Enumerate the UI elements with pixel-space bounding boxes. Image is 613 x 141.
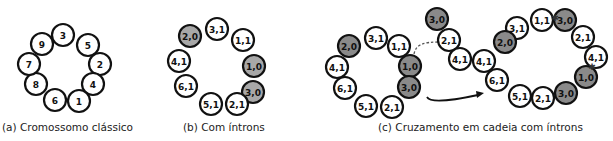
dashed-cut-connector — [414, 42, 440, 54]
gene-label: 1,1 — [534, 16, 550, 26]
gene-label: 5,1 — [512, 92, 528, 102]
intron-gene-node: 2,0 — [179, 25, 201, 47]
crossover-mark-icon: ✱ — [551, 13, 559, 23]
gene-label: 3,0 — [557, 16, 573, 26]
gene-label: 6,1 — [337, 84, 353, 94]
gene-node: 6,1 — [334, 77, 356, 99]
intron-gene-node: 2,0 — [338, 35, 360, 57]
gene-label: 3,0 — [429, 15, 445, 25]
arrow-head-icon — [476, 91, 484, 98]
gene-label: 2,1 — [575, 33, 591, 43]
gene-label: 3,0 — [401, 83, 417, 93]
gene-label: 6,1 — [178, 82, 194, 92]
gene-label: 3,1 — [368, 34, 384, 44]
gene-label: 4,1 — [329, 63, 345, 73]
gene-label: 4,1 — [588, 53, 604, 63]
crossover-mark-icon: ✱ — [588, 62, 596, 72]
gene-node: 8 — [25, 73, 47, 95]
gene-node: 5,1 — [355, 95, 377, 117]
gene-node: 4,1 — [168, 50, 190, 72]
gene-node: 3,1 — [206, 18, 228, 40]
detached-fragment: 3,02,14,1 — [426, 8, 471, 70]
gene-label: 1,0 — [402, 62, 418, 72]
intron-gene-node: 3,0 — [426, 8, 448, 30]
gene-node: 4,1 — [449, 48, 471, 70]
gene-node: 1,1 — [232, 29, 254, 51]
gene-node: 2,1 — [572, 26, 594, 48]
intron-gene-node: 2,0 — [494, 31, 516, 53]
transition-arrow — [427, 95, 478, 101]
gene-label: 3,0 — [245, 88, 261, 98]
gene-label: 1,0 — [578, 73, 594, 83]
gene-node: 7 — [18, 53, 40, 75]
gene-node: 9 — [31, 33, 53, 55]
gene-node: 4,1 — [473, 50, 495, 72]
gene-label: 2,1 — [441, 36, 457, 46]
gene-node: 6 — [44, 89, 66, 111]
gene-node: 4,1 — [326, 56, 348, 78]
gene-label: 2,0 — [497, 38, 513, 48]
gene-label: 5 — [85, 41, 91, 51]
panel-c-chain-crossover: 3,11,11,03,02,15,16,14,12,0 3,02,14,1 3,… — [326, 8, 607, 118]
gene-node: 6,1 — [175, 75, 197, 97]
gene-node: 2,1 — [532, 87, 554, 109]
gene-node: 2,1 — [381, 96, 403, 118]
gene-label: 6,1 — [489, 76, 505, 86]
gene-label: 2,0 — [341, 42, 357, 52]
intron-gene-node: 1,0 — [243, 55, 265, 77]
gene-label: 2,1 — [535, 94, 551, 104]
gene-label: 2,1 — [229, 100, 245, 110]
gene-label: 3,0 — [558, 89, 574, 99]
intron-gene-node: 1,0 — [399, 55, 421, 77]
caption-b: (b) Com íntrons — [183, 121, 265, 133]
gene-label: 3,1 — [209, 25, 225, 35]
ring-after-crossover: 3,11,13,02,14,11,03,02,15,16,14,12,0 — [473, 9, 607, 109]
gene-node: 1 — [68, 90, 90, 112]
gene-node: 1,1 — [531, 9, 553, 31]
intron-gene-node: 3,0 — [398, 76, 420, 98]
gene-label: 9 — [39, 40, 45, 50]
gene-label: 8 — [33, 80, 39, 90]
gene-label: 1,1 — [391, 42, 407, 52]
gene-node: 2 — [89, 53, 111, 75]
gene-label: 5,1 — [358, 102, 374, 112]
gene-label: 4,1 — [171, 57, 187, 67]
gene-label: 7 — [26, 60, 32, 70]
gene-node: 2,1 — [226, 93, 248, 115]
gene-node: 1,1 — [388, 35, 410, 57]
gene-label: 2 — [97, 60, 103, 70]
ring-before-crossover: 3,11,11,03,02,15,16,14,12,0 — [326, 27, 421, 118]
panel-b-with-introns: 3,11,11,03,02,15,16,14,12,0 — [168, 18, 265, 115]
intron-gene-node: 3,0 — [555, 82, 577, 104]
chromosome-diagram: 352416879 3,11,11,03,02,15,16,14,12,0 3,… — [0, 0, 613, 141]
gene-label: 1 — [76, 97, 82, 107]
gene-label: 2,1 — [384, 103, 400, 113]
gene-node: 5,1 — [509, 85, 531, 107]
gene-label: 5,1 — [203, 100, 219, 110]
panel-a-classic-chromosome: 352416879 — [18, 24, 111, 112]
gene-label: 4,1 — [476, 57, 492, 67]
caption-a: (a) Cromossomo clássico — [2, 121, 133, 133]
gene-node: 5,1 — [200, 93, 222, 115]
gene-label: 2,0 — [182, 32, 198, 42]
gene-label: 4 — [90, 80, 96, 90]
gene-label: 6 — [52, 96, 58, 106]
gene-label: 3 — [60, 31, 66, 41]
gene-label: 4,1 — [452, 55, 468, 65]
gene-label: 1,0 — [246, 62, 262, 72]
gene-node: 3,1 — [365, 27, 387, 49]
caption-c: (c) Cruzamento em cadeia com íntrons — [378, 121, 583, 133]
gene-node: 6,1 — [486, 69, 508, 91]
gene-label: 1,1 — [235, 36, 251, 46]
gene-node: 3 — [52, 24, 74, 46]
